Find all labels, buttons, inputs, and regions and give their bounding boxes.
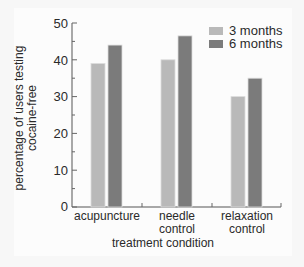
y-tick-label-20: 20 xyxy=(44,126,68,141)
y-tick-label-50: 50 xyxy=(44,16,68,31)
category-label-line: control xyxy=(207,223,287,236)
bar-needle-control-3-months xyxy=(161,60,175,207)
x-category-relaxation-control: relaxation control xyxy=(207,210,287,236)
y-tick-label-30: 30 xyxy=(44,89,68,104)
bar-needle-control-6-months xyxy=(178,36,192,207)
y-axis-title: percentage of users testing cocaine-free xyxy=(13,46,39,191)
bar-acupuncture-3-months xyxy=(91,63,105,207)
bar-acupuncture-6-months xyxy=(108,45,122,207)
y-tick-label-0: 0 xyxy=(44,199,68,214)
category-label-line: acupuncture xyxy=(67,210,147,223)
legend-label-6-months: 6 months xyxy=(229,37,282,50)
x-axis-title: treatment condition xyxy=(0,236,304,250)
category-label-line: control xyxy=(137,223,217,236)
bar-relaxation-control-6-months xyxy=(248,78,262,207)
x-category-acupuncture: acupuncture xyxy=(67,210,147,223)
y-ticks xyxy=(72,23,77,207)
y-tick-label-40: 40 xyxy=(44,53,68,68)
legend: 3 months 6 months xyxy=(209,24,282,50)
legend-item-6-months: 6 months xyxy=(209,37,282,50)
bar-relaxation-control-3-months xyxy=(231,97,245,207)
x-category-needle-control: needle control xyxy=(137,210,217,236)
legend-swatch-6-months xyxy=(209,40,223,48)
y-tick-label-10: 10 xyxy=(44,163,68,178)
legend-swatch-3-months xyxy=(209,27,223,35)
y-axis-title-line2: cocaine-free xyxy=(26,46,39,191)
bars xyxy=(91,36,262,207)
